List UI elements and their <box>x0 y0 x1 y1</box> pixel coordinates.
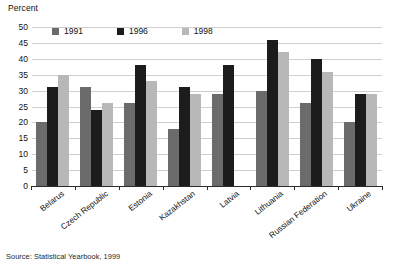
legend-swatch-icon <box>117 28 124 35</box>
y-axis-tick-label: 40 <box>19 55 28 64</box>
legend-label: 1996 <box>129 27 148 36</box>
x-axis-category-label: Estonia <box>127 190 154 213</box>
bar-group <box>75 27 119 186</box>
y-axis-tick-label: 35 <box>19 70 28 79</box>
y-axis-tick-label: 5 <box>23 166 28 175</box>
x-axis-category-label: Czech Republic <box>60 190 110 232</box>
bar-groups <box>31 27 382 186</box>
bar <box>36 122 47 186</box>
bar <box>355 94 366 186</box>
bar <box>278 52 289 186</box>
y-axis-title: Percent <box>8 3 38 13</box>
bar-chart: Percent 50454035302520151050 19911996199… <box>0 0 403 263</box>
chart-legend: 199119961998 <box>52 27 213 36</box>
y-axis-tick-label: 0 <box>23 182 28 191</box>
bar <box>135 65 146 186</box>
bar <box>58 75 69 186</box>
bar <box>344 122 355 186</box>
y-axis-tick-labels: 50454035302520151050 <box>0 27 28 186</box>
legend-item-1991: 1991 <box>52 27 83 36</box>
y-axis-tick-label: 50 <box>19 23 28 32</box>
bar <box>80 87 91 186</box>
y-axis-tick-label: 10 <box>19 150 28 159</box>
x-axis-category-label: Kazakhstan <box>159 190 198 223</box>
x-axis-category-label: Belarus <box>39 190 66 214</box>
bar <box>311 59 322 186</box>
bar-group <box>250 27 294 186</box>
source-note: Source: Statistical Yearbook, 1999 <box>6 253 120 261</box>
bar <box>168 129 179 186</box>
bar-group <box>207 27 251 186</box>
y-axis-tick-label: 25 <box>19 102 28 111</box>
legend-swatch-icon <box>52 28 59 35</box>
x-axis-category-labels: BelarusCzech RepublicEstoniaKazakhstanLa… <box>31 190 382 250</box>
x-axis-category-label: Latvia <box>219 190 241 210</box>
bar <box>223 65 234 186</box>
x-axis-tick-mark <box>382 186 383 190</box>
legend-label: 1998 <box>194 27 213 36</box>
bar-group <box>294 27 338 186</box>
bar <box>190 94 201 186</box>
bar <box>146 81 157 186</box>
bar <box>300 103 311 186</box>
bar <box>212 94 223 186</box>
y-axis-tick-label: 45 <box>19 39 28 48</box>
bar-group <box>119 27 163 186</box>
bar-group <box>31 27 75 186</box>
bar <box>124 103 135 186</box>
bar <box>256 91 267 186</box>
y-axis-tick-label: 15 <box>19 134 28 143</box>
legend-item-1996: 1996 <box>117 27 148 36</box>
bar <box>322 72 333 186</box>
bar <box>267 40 278 186</box>
y-axis-tick-label: 30 <box>19 86 28 95</box>
bar <box>102 103 113 186</box>
bar <box>91 110 102 186</box>
bar-group <box>338 27 382 186</box>
x-axis-category-label: Lithuania <box>254 190 285 217</box>
bar-group <box>163 27 207 186</box>
legend-swatch-icon <box>182 28 189 35</box>
bar <box>179 87 190 186</box>
bar <box>366 94 377 186</box>
bar <box>47 87 58 186</box>
y-axis-tick-label: 20 <box>19 118 28 127</box>
x-axis-category-label: Ukraine <box>346 190 373 214</box>
legend-item-1998: 1998 <box>182 27 213 36</box>
legend-label: 1991 <box>64 27 83 36</box>
